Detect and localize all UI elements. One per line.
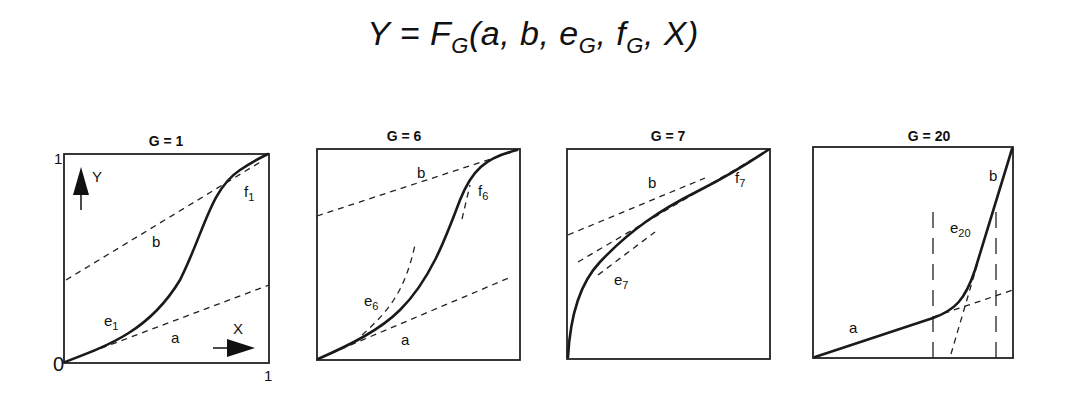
y-axis-label: Y (92, 168, 102, 185)
dashed-line-b (317, 152, 512, 216)
x-axis-arrow-icon (213, 339, 255, 357)
label-e-text: e (614, 271, 622, 288)
label-f-sub: 1 (248, 191, 254, 203)
label-f: f7 (735, 169, 745, 189)
label-a: a (401, 331, 410, 348)
y-axis-arrow-icon (73, 167, 89, 210)
label-e-sub: 20 (958, 227, 970, 239)
label-e: e6 (364, 292, 378, 312)
panel-title: G = 6 (387, 128, 422, 144)
label-f-sub: 6 (482, 190, 488, 202)
label-f-sub: 7 (739, 177, 745, 189)
label-b: b (648, 174, 656, 191)
panel-g7: G = 7 b e7 f7 (567, 128, 770, 359)
plot-frame (813, 147, 1013, 358)
label-e-text: e (104, 312, 112, 329)
x-axis-label: X (233, 320, 243, 337)
label-b: b (152, 233, 160, 250)
label-f: f1 (244, 183, 254, 203)
label-e-sub: 1 (112, 320, 118, 332)
label-b: b (989, 167, 997, 184)
label-a: a (171, 329, 180, 346)
label-b: b (417, 164, 425, 181)
curve-f6 (318, 150, 517, 359)
label-a: a (849, 319, 858, 336)
label-e-text: e (364, 292, 372, 309)
panel-title: G = 7 (651, 128, 686, 144)
origin-label: 0 (53, 353, 64, 375)
label-e-sub: 7 (622, 279, 628, 291)
figure-panels: G = 1 b a e1 f1 Y X 0 1 1 G = 6 (0, 0, 1066, 401)
panel-g1: G = 1 b a e1 f1 Y X 0 1 1 (53, 133, 272, 384)
label-e-text: e (950, 219, 958, 236)
label-e: e1 (104, 312, 118, 332)
x-max-label: 1 (264, 367, 272, 384)
panel-title: G = 20 (908, 128, 951, 144)
panel-g6: G = 6 b a e6 f6 (317, 128, 520, 360)
label-e-sub: 6 (372, 300, 378, 312)
y-max-label: 1 (54, 150, 62, 167)
curve-f20 (815, 149, 1012, 357)
label-f: f6 (478, 182, 488, 202)
label-e: e7 (614, 271, 628, 291)
label-e: e20 (950, 219, 971, 239)
panel-title: G = 1 (149, 133, 184, 149)
panel-g20: G = 20 a b e20 (813, 128, 1016, 358)
dashed-line-b (568, 178, 705, 235)
